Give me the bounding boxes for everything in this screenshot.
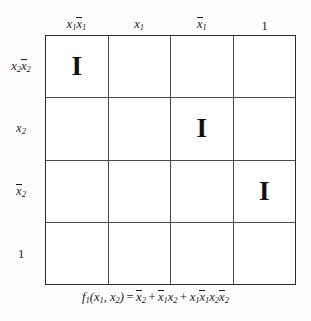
column-header-x1x1bar: x1x1 [45,10,108,34]
map-cell[interactable] [171,161,234,222]
karnaugh-map-figure: x1x1 x1 x1 1 x2x2 x2 x2 1 I [0,0,311,321]
row-label-x2: x2 [0,98,45,161]
row-label-one: 1 [0,223,45,286]
row-label-x2x2bar: x2x2 [0,35,45,98]
caption-term-2: x1x2 [158,290,178,304]
map-cell[interactable]: I [171,98,234,159]
caption-formula: f1(x1, x2)=x2+x1x2+x1x1x2x2 [0,290,311,306]
map-cell[interactable] [171,223,234,284]
row-label-x2-label: x2 [16,122,26,136]
column-header-x1bar: x1 [171,10,234,34]
map-grid: I I I [45,35,296,285]
map-cell[interactable] [46,98,109,159]
column-header-one-label: 1 [262,20,268,33]
caption-function: f1(x1, x2) [82,290,124,304]
cell-mark: I [71,53,82,80]
map-cell[interactable] [234,223,296,284]
table-row: I [46,161,295,223]
column-header-x1bar-label: x1 [197,17,207,32]
row-label-one-label: 1 [18,248,24,261]
map-cell[interactable] [46,223,109,284]
map-cell[interactable] [109,223,172,284]
column-header-x1x1bar-label: x1x1 [67,17,87,32]
map-cell[interactable] [109,161,172,222]
column-header-x1: x1 [108,10,171,34]
cell-mark: I [196,115,207,142]
row-label-column: x2x2 x2 x2 1 [0,35,45,285]
map-cell[interactable] [109,36,172,97]
map-cell[interactable] [171,36,234,97]
caption-equals: = [124,290,136,304]
row-label-x2bar-label: x2 [16,184,26,199]
map-cell[interactable] [234,98,296,159]
column-header-row: x1x1 x1 x1 1 [45,10,296,34]
map-cell[interactable] [109,98,172,159]
caption-term-3: x1x1x2x2 [190,290,229,304]
map-cell[interactable] [46,161,109,222]
row-label-x2bar: x2 [0,160,45,223]
column-header-one: 1 [233,10,296,34]
row-label-x2x2bar-label: x2x2 [11,59,31,74]
caption-term-1: x2 [136,290,146,304]
cell-mark: I [259,178,270,205]
map-cell[interactable] [234,36,296,97]
caption-plus-1: + [146,290,158,304]
table-row [46,223,295,284]
map-cell[interactable]: I [234,161,296,222]
caption-plus-2: + [178,290,190,304]
map-cell[interactable]: I [46,36,109,97]
column-header-x1-label: x1 [134,18,144,32]
table-row: I [46,98,295,160]
table-row: I [46,36,295,98]
